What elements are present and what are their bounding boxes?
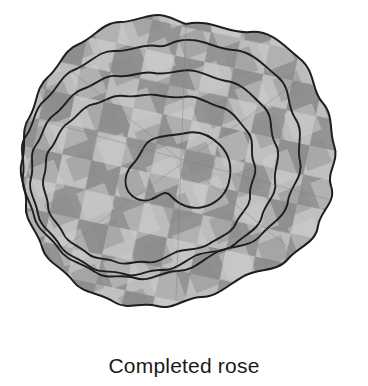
rose-fabric-body bbox=[0, 0, 368, 348]
figure-caption: Completed rose bbox=[0, 352, 368, 380]
figure-container: Completed rose bbox=[0, 0, 368, 386]
completed-rose-illustration bbox=[0, 0, 368, 348]
